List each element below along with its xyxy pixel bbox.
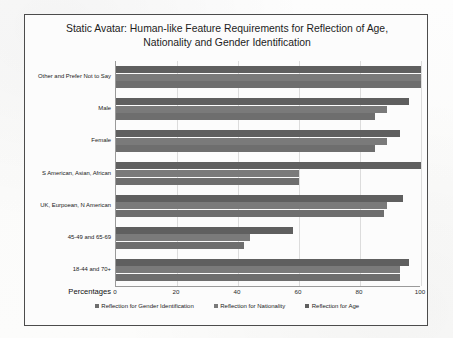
category-label: Female — [27, 137, 111, 143]
bar-group — [116, 125, 420, 157]
bar-group — [116, 61, 420, 93]
category-label: 45-49 and 65-69 — [27, 234, 111, 240]
bar-group — [116, 190, 420, 222]
bar — [116, 259, 409, 266]
bar — [116, 210, 384, 217]
bar — [116, 266, 400, 273]
bar — [116, 195, 403, 202]
bar — [116, 162, 421, 169]
bar — [116, 145, 375, 152]
legend-label: Reflection for Gender Identification — [101, 303, 193, 309]
legend-entry: Reflection for Age — [305, 303, 359, 309]
tick-label-100: 100 — [415, 288, 425, 295]
chart-legend: Reflection for Gender IdentificationRefl… — [25, 303, 429, 309]
category-label: UK, Eurpoean, N American — [27, 202, 111, 208]
bar — [116, 81, 421, 88]
tick-label-20: 20 — [173, 288, 180, 295]
tick-label-40: 40 — [234, 288, 241, 295]
bar — [116, 113, 375, 120]
x-axis-tick-labels: 020406080100 — [115, 288, 425, 300]
legend-entry: Reflection for Nationality — [214, 303, 286, 309]
bar — [116, 138, 387, 145]
bar — [116, 130, 400, 137]
bar — [116, 66, 421, 73]
bar — [116, 274, 400, 281]
plot-area — [115, 61, 420, 286]
bar — [116, 242, 244, 249]
bar — [116, 106, 387, 113]
category-label: 18-44 and 70+ — [27, 266, 111, 272]
tick-label-80: 80 — [356, 288, 363, 295]
bar — [116, 98, 409, 105]
legend-swatch — [305, 304, 309, 308]
plot-wrapper: Other and Prefer Not to SayMaleFemaleS A… — [25, 61, 429, 293]
gridline-100 — [421, 61, 422, 286]
bar — [116, 227, 293, 234]
bar — [116, 234, 250, 241]
bar — [116, 202, 387, 209]
tick-label-60: 60 — [295, 288, 302, 295]
bar-group — [116, 157, 420, 189]
legend-label: Reflection for Nationality — [220, 303, 285, 309]
bar — [116, 178, 299, 185]
tick-label-0: 0 — [113, 288, 116, 295]
legend-label: Reflection for Age — [312, 303, 359, 309]
bar-group — [116, 222, 420, 254]
category-label: S American, Asian, African — [27, 170, 111, 176]
bar — [116, 170, 299, 177]
bar-group — [116, 254, 420, 286]
bar-group — [116, 93, 420, 125]
x-axis-line — [115, 286, 420, 287]
category-label: Male — [27, 105, 111, 111]
legend-swatch — [95, 304, 99, 308]
category-label: Other and Prefer Not to Say — [27, 73, 111, 79]
legend-swatch — [214, 304, 218, 308]
legend-entry: Reflection for Gender Identification — [95, 303, 194, 309]
bar — [116, 74, 421, 81]
chart-title: Static Avatar: Human-like Feature Requir… — [47, 22, 407, 49]
x-axis-title: Percentages — [41, 287, 111, 296]
chart-container: Static Avatar: Human-like Feature Requir… — [24, 14, 428, 326]
y-axis-category-labels: Other and Prefer Not to SayMaleFemaleS A… — [27, 61, 111, 286]
